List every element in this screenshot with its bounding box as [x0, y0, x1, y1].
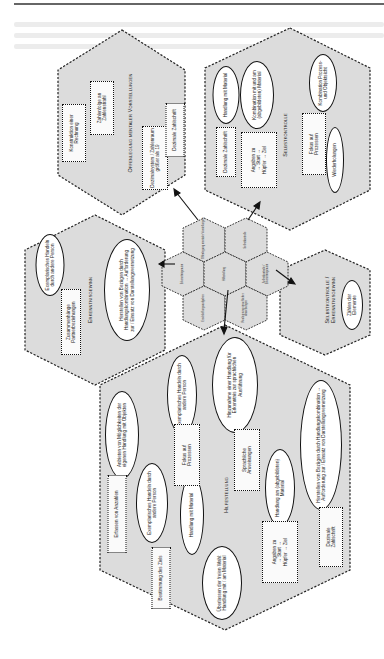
title-offenlegung: Offenlegung mentaler Vorstellungen [127, 73, 133, 172]
oval-text: Exemplarisches Handeln durch andere Pers… [177, 363, 188, 427]
cluster-label-selbstkontrolle: Selbstkontrolle [245, 221, 248, 259]
box-text: Zusammenhänge Partnerbeziehungen [66, 292, 77, 352]
title-hilfestellung: Hilfestellung [223, 477, 229, 513]
oval-text: Hinzunahme einer Handlung für Erkenntnis… [227, 345, 243, 425]
box-text: Dezimalsystem / Zahlenraum größer als 19 [150, 128, 161, 188]
box-text: Fokus auf Prozessen [309, 126, 320, 162]
oval-text: Handlung mit Material [189, 491, 194, 539]
box-text: Dezimale Zahlschrift [223, 130, 228, 174]
box-text: Angaben zu → Start → Hüpfer → Ziel [272, 537, 288, 567]
box-text: Sprachliche Anweisungen [242, 438, 253, 482]
box-text: Dezimale Zahlschrift [172, 105, 177, 155]
title-selbstkontrolle-erkenntnisgewinn: Selbstkontrolle / Erkenntnisgewinn [324, 255, 336, 345]
title-selbstkontrolle: Selbstkontrolle [282, 113, 288, 157]
box-text: Zahlenfolge an Zahlenstrahl [97, 84, 108, 132]
oval-text: Handlung am (abgebildeten) Material [275, 458, 286, 518]
box-text: Angaben zu → Start → Hüpfer → Ziel [251, 145, 267, 175]
oval-text: Handlung mit Material [223, 71, 228, 119]
cluster-label-hilfestellung: Hilfestellung [224, 255, 227, 293]
cluster-label-erkenntnisgewinn: Erkenntnisgewinn [182, 255, 185, 293]
oval-text: Überlassen der freien Wahl: Handlung mit… [217, 552, 228, 614]
box-text: Konstruktion einer Rechnung [69, 107, 80, 159]
oval-text: Kombination mit und am (abgebildeten) Ma… [252, 67, 263, 123]
cluster-label-selbstkontrolle-erkenntnisgewinn: Selbstkontrolle / Erkenntnisgewinn [264, 255, 270, 293]
oval-text: Herstellen von Bezügen durch Handlungsko… [316, 387, 327, 503]
oval-text: Exemplarisches Handeln durch andere Pers… [147, 471, 158, 535]
oval-text: Zählen der Elemente [347, 285, 358, 325]
box-text: Bestimmung des Ziels [158, 551, 163, 605]
oval-text: Herstellen von Bezügen durch Handlungsko… [119, 247, 135, 333]
cluster-label-sprachliche-anweisungen: Realisierung sprachlicher Anweisungen [243, 289, 249, 327]
cluster-label-erschliessung: Erschließungsaufgaben [203, 289, 206, 327]
oval-text: Kombination Prozess- und Objektsicht [318, 59, 329, 107]
oval-text: Wiederholungen [332, 132, 337, 188]
title-erkenntnisgewinn: Erkenntnisgewinn [87, 277, 93, 323]
cluster-label-offenlegung: Offenlegung mentaler Vorstellungen [203, 221, 206, 259]
oval-text: Anbieten von Möglichkeiten der eigenen H… [117, 399, 128, 471]
box-text: Fokus auf Prozessen [182, 437, 193, 473]
oval-text: Exemplarisches Handeln durch andere Pers… [45, 239, 56, 291]
box-text: Dezimale Zahlschrift [326, 517, 337, 557]
box-text: Erfassen von Anzahlen [114, 479, 119, 549]
